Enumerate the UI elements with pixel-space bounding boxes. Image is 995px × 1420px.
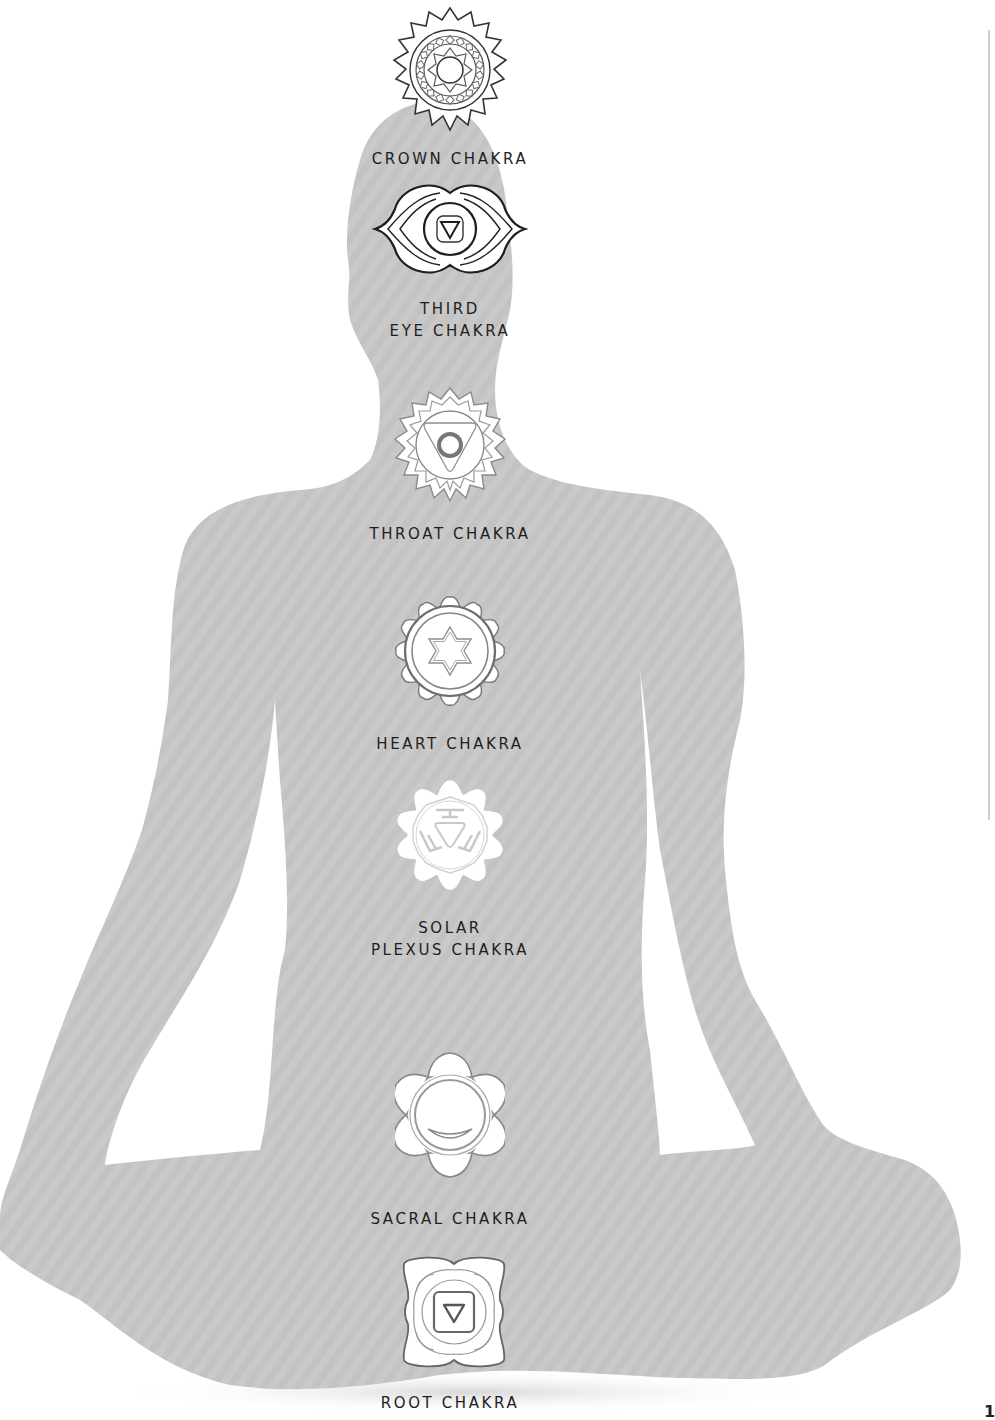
- sacral-chakra-symbol: [395, 1050, 505, 1180]
- heart-chakra-symbol: [394, 595, 506, 707]
- third-eye-chakra-label-line2: EYE CHAKRA: [0, 320, 900, 342]
- crown-chakra-label: CROWN CHAKRA: [0, 148, 900, 170]
- throat-chakra-symbol: [390, 385, 510, 505]
- page-number: 1: [984, 1402, 995, 1420]
- page-edge-line: [988, 30, 990, 820]
- root-chakra-symbol: [398, 1255, 510, 1370]
- crown-chakra-symbol: [385, 5, 515, 135]
- solar-plexus-chakra-label-line2: PLEXUS CHAKRA: [0, 939, 900, 961]
- third-eye-chakra-symbol: [372, 183, 528, 275]
- throat-chakra-label: THROAT CHAKRA: [0, 523, 900, 545]
- heart-chakra-label: HEART CHAKRA: [0, 733, 900, 755]
- root-chakra-label: ROOT CHAKRA: [0, 1392, 900, 1414]
- solar-plexus-chakra-symbol: [396, 775, 504, 895]
- sacral-chakra-label: SACRAL CHAKRA: [0, 1208, 900, 1230]
- solar-plexus-chakra-label-line1: SOLAR: [0, 917, 900, 939]
- third-eye-chakra-label-line1: THIRD: [0, 298, 900, 320]
